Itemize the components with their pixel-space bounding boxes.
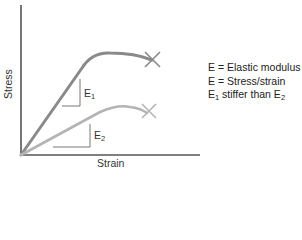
x-axis-label: Strain	[97, 157, 124, 169]
slope-label-e2: E2	[94, 129, 105, 141]
slope-label-e1: E1	[84, 87, 95, 99]
curve-e1	[21, 53, 152, 155]
legend: E = Elastic modulus E = Stress/strain E1…	[208, 61, 301, 102]
legend-line-3: E1 stiffer than E2	[208, 88, 301, 102]
legend-line-2: E = Stress/strain	[208, 75, 301, 89]
y-axis-label: Stress	[2, 69, 14, 99]
legend-line-1: E = Elastic modulus	[208, 61, 301, 75]
